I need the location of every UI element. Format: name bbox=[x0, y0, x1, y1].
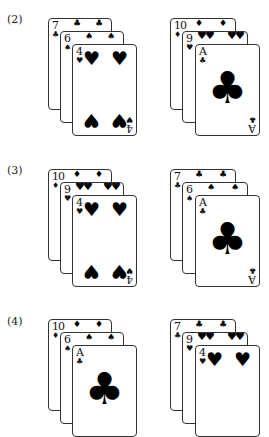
hearts-icon: ♥ bbox=[111, 182, 121, 191]
hearts-icon: ♥ bbox=[234, 350, 251, 369]
playing-card: A ♣ ♣ bbox=[72, 345, 137, 437]
diamonds-icon: ♦ bbox=[73, 320, 81, 329]
diamonds-icon: ♦ bbox=[219, 19, 227, 28]
spades-icon: ♠ bbox=[64, 44, 71, 52]
spades-icon: ♠ bbox=[85, 32, 93, 41]
spades-icon: ♠ bbox=[186, 195, 193, 203]
clubs-icon: ♣ bbox=[199, 57, 206, 65]
spades-icon: ♠ bbox=[85, 333, 93, 342]
clubs-icon: ♣ bbox=[195, 170, 203, 179]
playing-card: 4 ♥ ♥ ♥ ♥ ♥ ♥ 4 bbox=[72, 195, 137, 287]
spades-icon: ♠ bbox=[207, 183, 215, 192]
hearts-icon: ♥ bbox=[111, 49, 128, 68]
diamonds-icon: ♦ bbox=[195, 19, 203, 28]
hearts-icon: ♥ bbox=[83, 200, 100, 219]
playing-card: 4 ♥ ♥ ♥ ♥ ♥ ♥ 4 bbox=[72, 44, 137, 136]
hearts-icon: ♥ bbox=[186, 44, 193, 52]
clubs-icon: ♣ bbox=[85, 367, 124, 411]
diamonds-icon: ♦ bbox=[174, 31, 181, 39]
option-label: (3) bbox=[7, 164, 23, 177]
hearts-icon: ♥ bbox=[83, 182, 93, 191]
spades-icon: ♠ bbox=[231, 183, 239, 192]
diamonds-icon: ♦ bbox=[52, 332, 59, 340]
diamonds-icon: ♦ bbox=[95, 320, 103, 329]
card-rank: A bbox=[249, 274, 256, 285]
card-rank: A bbox=[249, 123, 256, 134]
hearts-icon: ♥ bbox=[111, 200, 128, 219]
clubs-icon: ♣ bbox=[76, 358, 83, 366]
option-label: (4) bbox=[7, 315, 23, 328]
playing-card: 4 ♥ ♥ ♥ bbox=[195, 345, 260, 437]
hearts-icon: ♥ bbox=[64, 195, 71, 203]
option-label: (2) bbox=[7, 13, 23, 26]
hearts-icon: ♥ bbox=[83, 111, 100, 130]
card-rank: 4 bbox=[127, 123, 133, 134]
hearts-icon: ♥ bbox=[83, 49, 100, 68]
diamonds-icon: ♦ bbox=[73, 170, 81, 179]
hearts-icon: ♥ bbox=[206, 350, 223, 369]
clubs-icon: ♣ bbox=[208, 66, 247, 110]
clubs-icon: ♣ bbox=[219, 170, 227, 179]
hearts-icon: ♥ bbox=[235, 31, 245, 40]
clubs-icon: ♣ bbox=[95, 19, 103, 28]
clubs-icon: ♣ bbox=[208, 217, 247, 261]
hearts-icon: ♥ bbox=[83, 262, 100, 281]
hearts-icon: ♥ bbox=[235, 332, 245, 341]
clubs-icon: ♣ bbox=[219, 320, 227, 329]
clubs-icon: ♣ bbox=[195, 320, 203, 329]
clubs-icon: ♣ bbox=[174, 182, 181, 190]
spades-icon: ♠ bbox=[64, 345, 71, 353]
spades-icon: ♠ bbox=[107, 32, 115, 41]
clubs-icon: ♣ bbox=[174, 332, 181, 340]
hearts-icon: ♥ bbox=[205, 332, 215, 341]
diamonds-icon: ♦ bbox=[95, 170, 103, 179]
card-rank: 4 bbox=[127, 274, 133, 285]
clubs-icon: ♣ bbox=[73, 19, 81, 28]
clubs-icon: ♣ bbox=[52, 31, 59, 39]
clubs-icon: ♣ bbox=[199, 208, 206, 216]
playing-card: A ♣ ♣ ♣ A bbox=[195, 195, 260, 287]
diamonds-icon: ♦ bbox=[52, 182, 59, 190]
hearts-icon: ♥ bbox=[205, 31, 215, 40]
spades-icon: ♠ bbox=[107, 333, 115, 342]
hearts-icon: ♥ bbox=[186, 345, 193, 353]
playing-card: A ♣ ♣ ♣ A bbox=[195, 44, 260, 136]
